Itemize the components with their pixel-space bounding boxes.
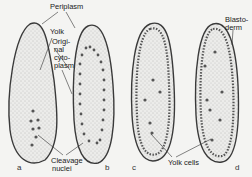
label-yolk-cells: Yolk cells [168,159,199,167]
label-original-cytoplasm-4: plasm [54,62,74,70]
label-cleavage-nuclei-2: nuclei [52,165,72,173]
label-periplasm: Periplasm [50,3,83,11]
label-yolk: Yolk [50,28,64,36]
panel-label-c: c [132,163,136,172]
panel-label-a: a [17,163,21,172]
panel-label-b: b [105,163,109,172]
panel-label-d: d [235,163,239,172]
embryo-b [73,25,114,163]
embryo-diagram [0,0,252,177]
label-blastoderm-2: derm [225,24,242,32]
embryo-c [132,23,175,161]
